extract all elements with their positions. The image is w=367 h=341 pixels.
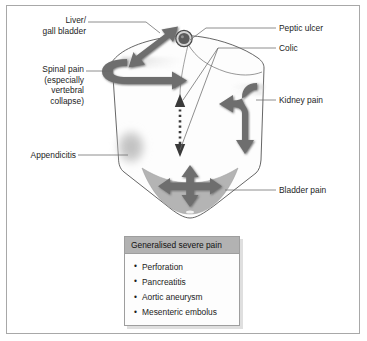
generalised-severe-pain-legend: Generalised severe pain Perforation Panc… <box>124 236 240 326</box>
list-item: Mesenteric embolus <box>134 305 234 320</box>
label-kidney-pain: Kidney pain <box>279 95 363 106</box>
label-colic: Colic <box>279 43 363 54</box>
label-liver-gall-bladder: Liver/ gall bladder <box>8 15 86 36</box>
list-item: Pancreatitis <box>134 274 234 289</box>
label-spinal-pain: Spinal pain (especially vertebral collap… <box>6 64 84 106</box>
list-item: Perforation <box>134 259 234 274</box>
appendicitis-blob <box>114 127 148 167</box>
diagram-page: Liver/ gall bladder Spinal pain (especia… <box>0 0 367 341</box>
peptic-ulcer-marker <box>176 30 192 46</box>
list-item: Aortic aneurysm <box>134 289 234 304</box>
label-appendicitis: Appendicitis <box>6 150 76 161</box>
label-peptic-ulcer: Peptic ulcer <box>279 23 363 34</box>
label-bladder-pain: Bladder pain <box>279 185 363 196</box>
bladder-notch <box>186 210 194 213</box>
legend-header: Generalised severe pain <box>125 237 239 254</box>
legend-list: Perforation Pancreatitis Aortic aneurysm… <box>125 254 239 325</box>
leader-liver-2 <box>146 22 160 33</box>
